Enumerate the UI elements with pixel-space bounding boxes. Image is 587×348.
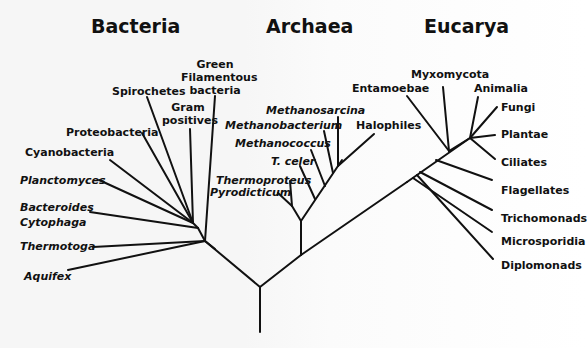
branch-gram-positives <box>190 129 193 223</box>
label-ciliates: Ciliates <box>501 156 547 169</box>
label-proteobacteria: Proteobacteria <box>66 126 158 139</box>
label-line: Green <box>181 58 249 71</box>
label-plantae: Plantae <box>501 128 548 141</box>
branch-ciliates <box>470 138 495 159</box>
branch-myxomycota <box>443 87 449 151</box>
branch-plantae <box>470 135 495 138</box>
label-animalia: Animalia <box>474 82 528 95</box>
label-spirochetes: Spirochetes <box>112 85 186 98</box>
label-planctomyces: Planctomyces <box>20 174 106 187</box>
ae-trunk <box>260 255 301 287</box>
label-line: Bacteroides <box>20 200 94 215</box>
label-diplomonads: Diplomonads <box>501 259 582 272</box>
branch-flagellates <box>436 160 492 180</box>
label-microsporidia: Microsporidia <box>501 235 585 248</box>
label-entamoebae: Entamoebae <box>352 82 429 95</box>
domain-title-eucarya: Eucarya <box>424 15 509 37</box>
label-t-celer: T. celer <box>271 155 315 168</box>
branch-animalia <box>470 97 478 138</box>
label-halophiles: Halophiles <box>356 119 421 132</box>
branch-microsporidia <box>413 178 492 232</box>
label-aquifex: Aquifex <box>24 270 71 283</box>
label-fungi: Fungi <box>501 101 535 114</box>
domain-title-archaea: Archaea <box>266 15 353 37</box>
label-line: positives <box>162 114 214 127</box>
label-methanobacterium: Methanobacterium <box>225 119 342 132</box>
label-line: Gram <box>162 101 214 114</box>
label-line: Cytophaga <box>20 215 94 230</box>
label-bacteroides-cytophaga: Bacteroides Cytophaga <box>20 200 94 230</box>
branch-fungi <box>470 107 497 138</box>
label-green-filamentous-bacteria: Green Filamentous bacteria <box>181 58 249 97</box>
label-methanococcus: Methanococcus <box>235 137 331 150</box>
branch-proteobacteria <box>142 133 193 223</box>
branch-halophiles <box>338 134 374 166</box>
label-flagellates: Flagellates <box>501 184 569 197</box>
label-myxomycota: Myxomycota <box>411 68 489 81</box>
label-pyrodicticum: Pyrodicticum <box>210 186 291 199</box>
label-line: bacteria <box>181 84 249 97</box>
label-methanosarcina: Methanosarcina <box>266 104 365 117</box>
label-cyanobacteria: Cyanobacteria <box>25 146 114 159</box>
label-line: Filamentous <box>181 71 249 84</box>
domain-title-bacteria: Bacteria <box>91 15 180 37</box>
label-gram-positives: Gram positives <box>162 101 214 127</box>
label-thermotoga: Thermotoga <box>20 240 95 253</box>
label-trichomonads: Trichomonads <box>501 212 587 225</box>
eucarya-trunk-lower <box>301 182 407 255</box>
